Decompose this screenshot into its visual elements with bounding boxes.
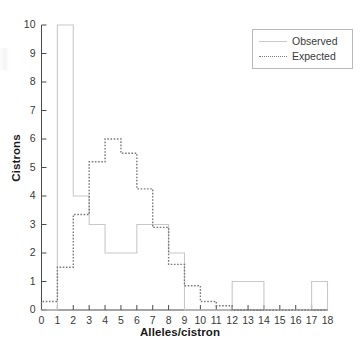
chart-legend: Observed Expected: [252, 29, 353, 69]
x-axis-title: Alleles/cistron: [0, 326, 360, 338]
y-axis-title: Cistrons: [10, 118, 22, 198]
legend-label-expected: Expected: [292, 50, 336, 62]
y-tick-label: 2: [12, 246, 36, 258]
y-tick-label: 0: [12, 303, 36, 315]
y-tick-label: 1: [12, 275, 36, 287]
y-tick-label: 9: [12, 47, 36, 59]
solid-line-swatch: [259, 41, 287, 42]
legend-item-observed: Observed: [259, 35, 351, 49]
legend-item-expected: Expected: [259, 50, 351, 64]
y-tick-label: 3: [12, 218, 36, 230]
dotted-line-swatch: [259, 56, 287, 57]
x-tick-label: 18: [318, 314, 338, 326]
y-tick-label: 8: [12, 75, 36, 87]
legend-label-observed: Observed: [292, 35, 338, 47]
y-tick-label: 7: [12, 104, 36, 116]
chart-container: 0123456789101112131415161718 01234567891…: [0, 0, 360, 352]
y-tick-label: 10: [12, 18, 36, 30]
